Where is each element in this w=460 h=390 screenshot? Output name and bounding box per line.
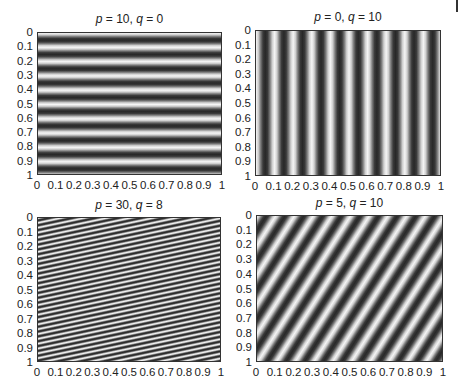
x-tick-label: 0.4	[321, 366, 341, 378]
y-tick-label: 0.5	[228, 283, 252, 295]
heatmap-image	[256, 215, 443, 362]
x-tick-label: 0	[27, 179, 47, 191]
y-tick-label: 0.6	[227, 112, 251, 124]
x-tick-label: 0.3	[302, 366, 322, 378]
y-tick-label: 0.2	[228, 238, 252, 250]
y-tick-label: 0.1	[9, 40, 33, 52]
y-tick-label: 0.1	[228, 224, 252, 236]
y-tick-label: 0.7	[9, 126, 33, 138]
subplot-title: p = 10, q = 0	[80, 12, 180, 26]
y-tick-label: 0.4	[227, 82, 251, 94]
y-tick-label: 0.9	[9, 155, 33, 167]
subplot-title: p = 5, q = 10	[300, 196, 400, 210]
x-tick-label: 0.9	[194, 179, 214, 191]
y-tick-label: 0.7	[9, 313, 33, 325]
y-tick-label: 0	[227, 24, 251, 36]
y-tick-label: 0.8	[228, 327, 252, 339]
y-tick-label: 0.1	[9, 226, 33, 238]
x-tick-label: 0.6	[358, 366, 378, 378]
x-tick-label: 1	[431, 180, 451, 192]
y-tick-label: 0.5	[9, 284, 33, 296]
y-tick-label: 0.9	[228, 341, 252, 353]
subplot-title: p = 30, q = 8	[79, 198, 179, 212]
x-tick-label: 0.7	[156, 366, 176, 378]
x-tick-label: 0.8	[174, 366, 194, 378]
heatmap-image	[255, 30, 441, 176]
y-tick-label: 0	[9, 211, 33, 223]
y-tick-label: 0.9	[9, 342, 33, 354]
y-tick-label: 0.3	[9, 69, 33, 81]
y-tick-label: 0.5	[227, 97, 251, 109]
x-tick-label: 0.4	[101, 179, 121, 191]
y-tick-label: 0.2	[9, 240, 33, 252]
y-tick-label: 0.6	[9, 298, 33, 310]
x-tick-label: 0.1	[265, 366, 285, 378]
x-tick-label: 0	[246, 366, 266, 378]
y-tick-label: 0.3	[228, 253, 252, 265]
x-tick-label: 0.3	[82, 366, 102, 378]
y-tick-label: 0.2	[9, 55, 33, 67]
y-tick-label: 0.6	[9, 112, 33, 124]
x-tick-label: 0.8	[394, 180, 414, 192]
x-tick-label: 0	[245, 180, 265, 192]
y-tick-label: 0.3	[227, 68, 251, 80]
x-tick-label: 0.1	[264, 180, 284, 192]
x-tick-label: 0.5	[120, 179, 140, 191]
x-tick-label: 0.5	[338, 180, 358, 192]
x-tick-label: 0.9	[193, 366, 213, 378]
subplot-title: p = 0, q = 10	[298, 10, 398, 24]
y-tick-label: 0.3	[9, 255, 33, 267]
y-tick-label: 0.7	[227, 126, 251, 138]
x-tick-label: 0.6	[138, 179, 158, 191]
x-tick-label: 0.1	[46, 179, 66, 191]
y-tick-label: 0.1	[227, 39, 251, 51]
heatmap-image	[37, 217, 221, 362]
y-tick-label: 0	[9, 26, 33, 38]
y-tick-label: 0.4	[9, 269, 33, 281]
x-tick-label: 0.4	[319, 180, 339, 192]
y-tick-label: 0.4	[9, 83, 33, 95]
x-tick-label: 0.3	[301, 180, 321, 192]
x-tick-label: 0.8	[396, 366, 416, 378]
y-tick-label: 0.2	[227, 53, 251, 65]
x-tick-label: 0.2	[64, 366, 84, 378]
y-tick-label: 0.8	[9, 327, 33, 339]
x-tick-label: 0.1	[45, 366, 65, 378]
x-tick-label: 0.6	[357, 180, 377, 192]
x-tick-label: 0.8	[175, 179, 195, 191]
x-tick-label: 0	[27, 366, 47, 378]
y-tick-label: 0.9	[227, 155, 251, 167]
x-tick-label: 0.2	[283, 366, 303, 378]
y-tick-label: 0.6	[228, 297, 252, 309]
y-tick-label: 0.5	[9, 98, 33, 110]
x-tick-label: 1	[433, 366, 453, 378]
y-tick-label: 0	[228, 209, 252, 221]
y-tick-label: 0.7	[228, 312, 252, 324]
x-tick-label: 0.7	[377, 366, 397, 378]
x-tick-label: 0.7	[375, 180, 395, 192]
x-tick-label: 0.3	[83, 179, 103, 191]
y-tick-label: 0.4	[228, 268, 252, 280]
x-tick-label: 0.7	[157, 179, 177, 191]
x-tick-label: 0.6	[137, 366, 157, 378]
x-tick-label: 0.2	[282, 180, 302, 192]
x-tick-label: 0.2	[64, 179, 84, 191]
x-tick-label: 0.4	[101, 366, 121, 378]
x-tick-label: 0.5	[340, 366, 360, 378]
y-tick-label: 0.8	[227, 141, 251, 153]
x-tick-label: 0.5	[119, 366, 139, 378]
heatmap-image	[37, 32, 222, 175]
y-tick-label: 0.8	[9, 140, 33, 152]
scan-mark	[456, 0, 458, 12]
x-tick-label: 0.9	[414, 366, 434, 378]
x-tick-label: 0.9	[412, 180, 432, 192]
